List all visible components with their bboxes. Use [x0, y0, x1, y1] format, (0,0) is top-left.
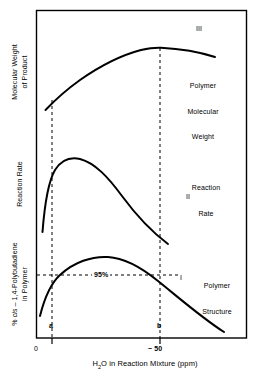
cis-italic: cis — [11, 309, 18, 318]
annotation-rr-line1: Reaction — [172, 184, 240, 193]
xtick-label-50: ~ 50 — [148, 345, 162, 354]
annotation-pmw-line3: Weight — [166, 133, 240, 142]
annotation-polymer-structure: Polymer Structure — [188, 265, 246, 333]
curve-label-i: I — [180, 274, 182, 283]
annotation-ps-line2: Structure — [188, 308, 246, 317]
yaxis-label-reaction-rate: Reaction Rate — [16, 140, 25, 228]
yaxis-label-rr-line1: Reaction Rate — [16, 161, 23, 207]
annotation-pmw-line1: Polymer — [166, 82, 240, 91]
yaxis-label-ps-line2: in Polymer — [21, 267, 28, 301]
yaxis-label-mw-line1: Molecular Weight — [11, 44, 18, 100]
marker-label-b: b — [157, 322, 161, 331]
xtick-label-0: 0 — [34, 345, 38, 354]
xaxis-title: H2O in Reaction Mixture (ppm) — [50, 360, 240, 371]
reference-label-95-percent: 95% — [92, 271, 110, 280]
curve-label-iii: III — [196, 25, 202, 34]
yaxis-label-molecular-weight: Molecular Weight — [11, 16, 20, 128]
annotation-pmw-line2: Molecular — [166, 108, 240, 117]
marker-label-a: a — [49, 322, 53, 331]
yaxis-label-of-product: of Product — [21, 16, 30, 128]
annotation-polymer-molecular-weight: Polymer Molecular Weight — [166, 65, 240, 159]
yaxis-label-mw-line2: of Product — [21, 56, 28, 89]
curve-ii-reaction-rate — [43, 158, 169, 244]
annotation-rr-line2: Rate — [172, 210, 240, 219]
annotation-reaction-rate: Reaction Rate — [172, 167, 240, 235]
yaxis-label-in-polymer: in Polymer — [21, 228, 30, 340]
yaxis-label-cis-polybutadiene: % cis – 1,4-Polybutadiene — [11, 228, 20, 340]
xaxis-title-post: O in Reaction Mixture (ppm) — [101, 359, 197, 368]
annotation-ps-line1: Polymer — [188, 282, 246, 291]
chart-figure: Molecular Weight of Product Reaction Rat… — [0, 0, 261, 376]
